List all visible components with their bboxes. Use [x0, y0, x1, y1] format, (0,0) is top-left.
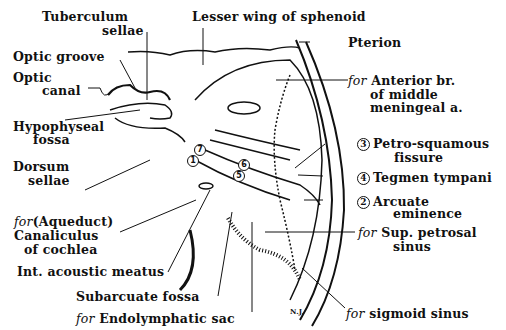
- label-petro-squamous-line2: fissure: [394, 151, 443, 164]
- label-dorsum-line1: Dorsum: [13, 160, 69, 173]
- label-lesser-wing: Lesser wing of sphenoid: [192, 10, 366, 23]
- label-anterior-br: for Anterior br.: [348, 74, 455, 87]
- number-2-icon: 2: [357, 196, 370, 209]
- label-tuberculum-line2: sellae: [102, 24, 144, 37]
- label-tuberculum-line1: Tuberculum: [42, 10, 128, 23]
- label-subarcuate-fossa: Subarcuate fossa: [76, 290, 200, 303]
- label-anterior-br-line1: Anterior br.: [371, 73, 455, 88]
- label-dorsum-line2: sellae: [28, 174, 70, 187]
- label-tegmen-tympani: 4Tegmen tympani: [357, 171, 492, 185]
- label-int-acoustic-meatus: Int. acoustic meatus: [17, 265, 164, 278]
- marker-5: 5: [233, 170, 245, 182]
- label-aqueduct: for(Aqueduct): [14, 215, 113, 228]
- label-arcuate-line2: eminence: [393, 207, 462, 220]
- label-petro-squamous: 3Petro-squamous: [357, 137, 489, 151]
- label-sup-petrosal: for Sup. petrosal: [358, 226, 477, 239]
- anatomy-diagram: 7 1 6 5 Tuberculum sellae Lesser wing of…: [0, 0, 506, 330]
- number-3-icon: 3: [357, 138, 370, 151]
- label-anterior-br-prefix: for: [348, 73, 367, 88]
- label-hypophyseal-line2: fossa: [33, 133, 70, 146]
- label-endolymphatic-sac: for Endolymphatic sac: [76, 312, 235, 325]
- marker-1: 1: [187, 155, 199, 167]
- number-4-icon: 4: [357, 172, 370, 185]
- marker-7: 7: [194, 144, 206, 156]
- label-anterior-br-line3: meningeal a.: [370, 101, 463, 114]
- label-optic-canal-line2: canal: [42, 84, 81, 97]
- label-optic-groove: Optic groove: [13, 50, 105, 63]
- artist-signature: N.J.: [290, 305, 304, 318]
- label-sup-petrosal-line2: sinus: [393, 240, 431, 253]
- label-aqueduct-line3: of cochlea: [24, 243, 98, 256]
- label-aqueduct-line2: Canaliculus: [14, 229, 99, 242]
- label-sigmoid-sinus: for sigmoid sinus: [346, 307, 469, 320]
- label-pterion: Pterion: [348, 36, 401, 49]
